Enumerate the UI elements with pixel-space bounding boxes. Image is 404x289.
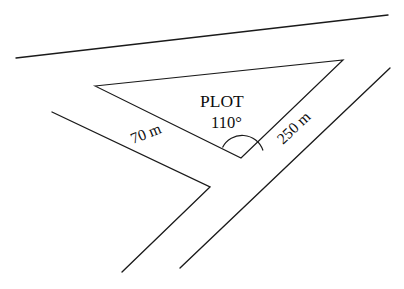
survey-diagram-canvas: PLOT 110° 70 m 250 m (0, 0, 404, 289)
angle-label: 110° (211, 113, 242, 132)
survey-plot-diagram: PLOT 110° 70 m 250 m (0, 0, 404, 289)
plot-label: PLOT (200, 91, 244, 111)
side-left-length-label: 70 m (128, 119, 163, 146)
top-road (16, 15, 388, 58)
side-right-length-label: 250 m (273, 108, 313, 147)
